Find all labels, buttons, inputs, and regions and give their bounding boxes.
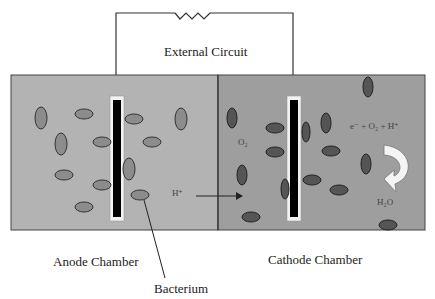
- anode-electrode: [110, 96, 124, 221]
- anode-chamber-label: Anode Chamber: [53, 254, 139, 270]
- cathode-chamber-label: Cathode Chamber: [268, 252, 362, 268]
- water-label: H₂O: [377, 197, 393, 207]
- external-circuit-label: External Circuit: [164, 44, 247, 60]
- bacterium-label: Bacterium: [154, 281, 208, 297]
- proton-label: H⁺: [172, 188, 184, 198]
- resistor-icon: [175, 13, 210, 19]
- reaction-label: e⁻ + O₂ + H⁺: [350, 121, 399, 131]
- cathode-electrode: [287, 96, 301, 221]
- oxygen-label: O₂: [238, 137, 248, 147]
